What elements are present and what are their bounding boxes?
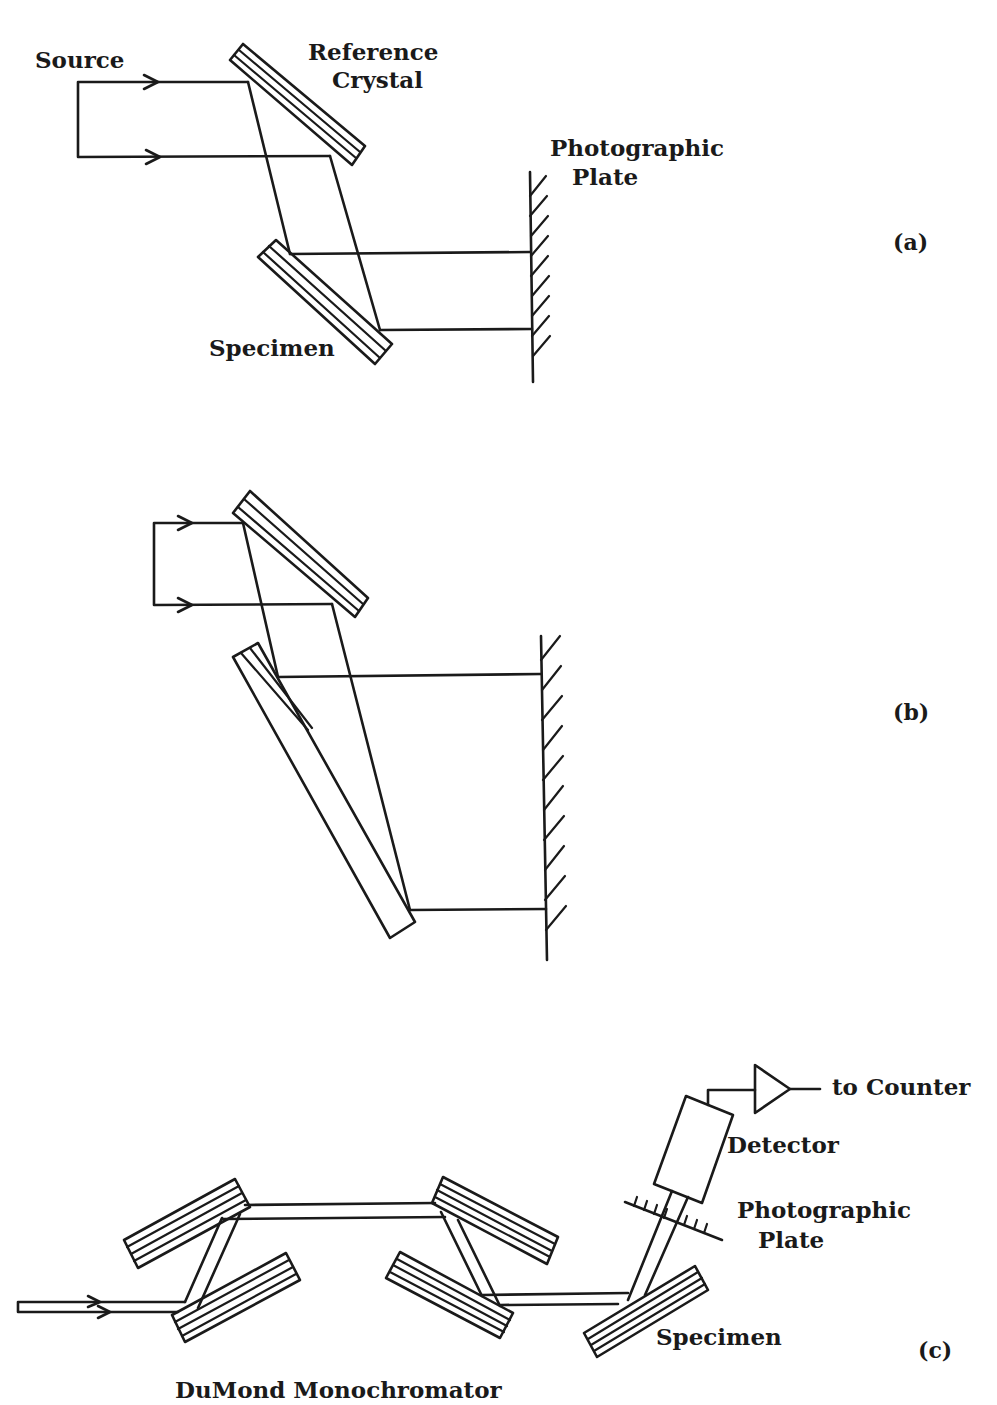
- photographic-plate-label: Photographic: [550, 134, 724, 161]
- monochromator-label: DuMond Monochromator: [175, 1376, 503, 1403]
- detector: [654, 1096, 733, 1203]
- input-beam: [18, 1296, 185, 1318]
- reference-crystal: [233, 491, 368, 617]
- source-label: Source: [35, 46, 124, 73]
- photographic-plate: [530, 172, 550, 382]
- panel-a: Source Reference Crystal Photographic Pl…: [35, 38, 928, 382]
- specimen-label: Specimen: [656, 1323, 782, 1350]
- monochromator-crystal-3: [432, 1177, 558, 1264]
- panel-tag-a: (a): [893, 229, 928, 255]
- reference-crystal-label: Reference: [308, 38, 438, 65]
- panel-tag-b: (b): [893, 699, 929, 725]
- specimen-crystal: [233, 643, 415, 938]
- amplifier-triangle-icon: [755, 1065, 790, 1113]
- detector-label: Detector: [727, 1131, 840, 1158]
- monochromator-crystal-1: [172, 1253, 300, 1342]
- specimen-label: Specimen: [209, 334, 335, 361]
- x-ray-topography-diagram: Source Reference Crystal Photographic Pl…: [0, 0, 997, 1405]
- monochromator-crystal-2: [124, 1179, 250, 1268]
- photographic-plate-label: Photographic: [737, 1196, 911, 1223]
- source-beam: [78, 75, 330, 164]
- photographic-plate-label-2: Plate: [572, 163, 638, 190]
- photographic-plate-label-2: Plate: [758, 1226, 824, 1253]
- panel-tag-c: (c): [918, 1337, 952, 1363]
- panel-b: (b): [154, 491, 929, 960]
- to-counter-label: to Counter: [832, 1073, 971, 1100]
- reference-crystal-label-2: Crystal: [332, 66, 423, 93]
- photographic-plate: [541, 636, 566, 960]
- amplifier: [708, 1065, 820, 1113]
- panel-c: to Counter Detector Photographic Plate S…: [18, 1065, 971, 1403]
- photographic-plate: [625, 1197, 722, 1240]
